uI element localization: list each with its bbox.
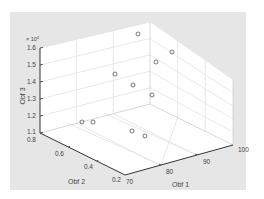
z-axis-label: Obf 3 [19, 87, 26, 104]
x-tick-label: 80 [166, 168, 174, 175]
z-tick-label: 1.6 [27, 44, 36, 51]
x-tick-label: 100 [238, 146, 249, 153]
x-tick-label: 70 [126, 178, 134, 185]
y-axis-label: Obf 2 [68, 178, 85, 185]
z-tick-label: 1.1 [27, 128, 36, 135]
y-tick-label: 0.6 [55, 150, 64, 157]
x-tick-label: 90 [203, 158, 211, 165]
y-tick-label: 0.4 [84, 163, 93, 170]
x-axis-label: Obf 1 [172, 181, 189, 188]
z-tick-label: 1.2 [27, 112, 36, 119]
z-tick-label: 1.4 [27, 78, 36, 85]
y-tick-label: 0.2 [112, 176, 121, 183]
z-tick-label: 1.3 [27, 95, 36, 102]
z-tick-label: 1.5 [27, 61, 36, 68]
scatter3d-figure: × 104 1.6 1.5 1.4 1.3 1.2 1.1 0.8 0.6 0.… [0, 0, 264, 199]
y-tick-label: 0.8 [27, 136, 36, 143]
